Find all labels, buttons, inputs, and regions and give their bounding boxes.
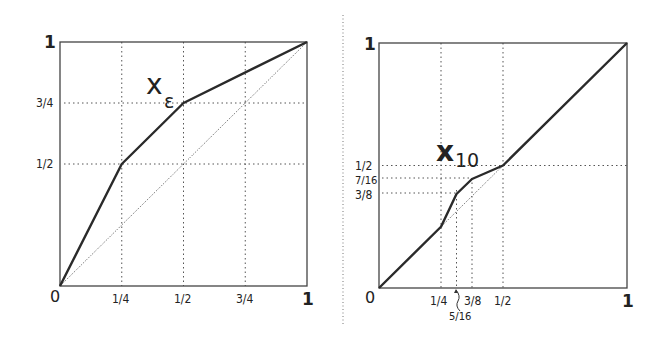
right-curve-label: x: [436, 135, 454, 168]
left-y-top-label: 1: [44, 32, 56, 52]
right-5-16-pointer: [456, 290, 460, 311]
right-y-label-7-16: 7/16: [355, 175, 377, 186]
left-x-label-1-2: 1/2: [174, 292, 191, 306]
right-x-label-3-8: 3/8: [464, 294, 482, 308]
figure: 1 0 3/4 1/2 1/4 1/2 3/4 1 x ε 1 0: [0, 0, 662, 340]
left-curve-label: x: [146, 68, 163, 101]
left-y-label-1-2: 1/2: [36, 157, 53, 171]
right-x-label-5-16: 5/16: [449, 311, 471, 322]
left-y-label-3-4: 3/4: [36, 96, 54, 110]
right-y-top-label: 1: [364, 34, 376, 54]
right-plot: 1 0 1/2 7/16 3/8 1/4 3/8 1/2 1 5/16 x 10: [355, 34, 634, 322]
left-x-label-1: 1: [302, 289, 314, 309]
right-origin-label: 0: [365, 288, 375, 307]
right-x-label-1-4: 1/4: [430, 294, 448, 308]
right-5-16-arrowhead: [454, 289, 458, 293]
left-x-label-1-4: 1/4: [112, 292, 130, 306]
right-x-label-1: 1: [622, 291, 634, 311]
right-x-label-1-2: 1/2: [494, 294, 511, 308]
left-x-label-3-4: 3/4: [236, 292, 254, 306]
right-y-label-1-2: 1/2: [355, 159, 372, 173]
left-origin-label: 0: [50, 287, 60, 306]
right-curve-subscript: 10: [455, 149, 479, 171]
left-curve-subscript: ε: [164, 90, 174, 112]
right-y-label-3-8: 3/8: [355, 188, 373, 202]
left-plot: 1 0 3/4 1/2 1/4 1/2 3/4 1 x ε: [36, 32, 314, 309]
